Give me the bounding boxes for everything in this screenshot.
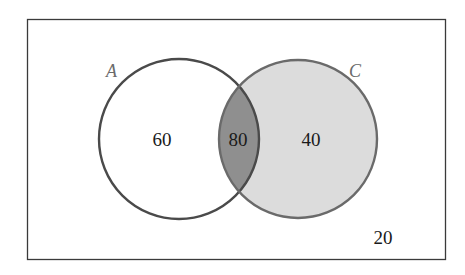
intersection-value: 80 [229, 129, 248, 150]
a-only-value: 60 [153, 129, 172, 150]
venn-diagram: A C 60 80 40 20 [0, 0, 465, 275]
c-only-value: 40 [302, 129, 321, 150]
set-a-label: A [105, 61, 118, 81]
outside-value: 20 [374, 227, 393, 248]
set-c-label: C [349, 61, 362, 81]
